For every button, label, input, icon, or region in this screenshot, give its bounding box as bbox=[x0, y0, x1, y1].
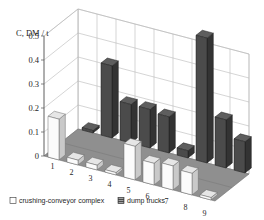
bar-dumptrucks-8-front bbox=[215, 117, 226, 168]
y-tick-label-3: 0.3 bbox=[28, 79, 39, 89]
legend-label-crushing-conveyor: crushing-conveyor complex bbox=[19, 197, 105, 205]
bar-dumptrucks-4-side bbox=[150, 105, 156, 148]
x-tick-label-2: 2 bbox=[70, 168, 74, 177]
y-tick-label-2: 0.2 bbox=[28, 103, 39, 113]
bar-crushing-7-front bbox=[162, 163, 173, 190]
bar-dumptrucks-9-side bbox=[245, 137, 251, 173]
chart-container: 00.10.20.30.40.5C, DM / t123456789crushi… bbox=[0, 0, 264, 220]
bar-crushing-5-side bbox=[135, 141, 141, 180]
y-tick-label-4: 0.4 bbox=[28, 55, 39, 65]
bar-dumptrucks-7-front bbox=[196, 35, 207, 163]
bar-crushing-8-front bbox=[181, 170, 192, 195]
bar-dumptrucks-7-side bbox=[207, 33, 213, 163]
bar-dumptrucks-5-front bbox=[158, 114, 169, 153]
y-tick-label-0: 0 bbox=[35, 151, 39, 161]
bar-chart-3d: 00.10.20.30.40.5C, DM / t123456789crushi… bbox=[0, 0, 264, 220]
bar-dumptrucks-8-side bbox=[226, 115, 232, 168]
x-tick-label-5: 5 bbox=[127, 186, 131, 195]
x-tick-label-9: 9 bbox=[203, 209, 207, 218]
y-tick-label-1: 0.1 bbox=[28, 127, 39, 137]
x-tick-label-4: 4 bbox=[108, 180, 112, 189]
legend-swatch-crushing-conveyor bbox=[10, 198, 16, 204]
bar-crushing-1-front bbox=[48, 116, 59, 160]
x-tick-label-3: 3 bbox=[89, 174, 93, 183]
y-axis-title: C, DM / t bbox=[16, 28, 49, 38]
bar-crushing-1-side bbox=[59, 114, 65, 160]
bar-dumptrucks-3-front bbox=[120, 102, 131, 143]
x-tick-label-8: 8 bbox=[184, 203, 188, 212]
legend-label-dump-trucks: dump trucks bbox=[127, 197, 166, 205]
bar-dumptrucks-2-front bbox=[101, 63, 112, 138]
bar-crushing-5-front bbox=[124, 143, 135, 180]
x-tick-label-1: 1 bbox=[51, 162, 55, 171]
bar-dumptrucks-2-side bbox=[112, 61, 118, 138]
x-tick-label-7: 7 bbox=[165, 197, 169, 206]
bar-crushing-6-front bbox=[143, 160, 154, 185]
bar-dumptrucks-9-front bbox=[234, 139, 245, 173]
bar-dumptrucks-3-side bbox=[131, 100, 137, 143]
bar-dumptrucks-5-side bbox=[169, 112, 175, 153]
